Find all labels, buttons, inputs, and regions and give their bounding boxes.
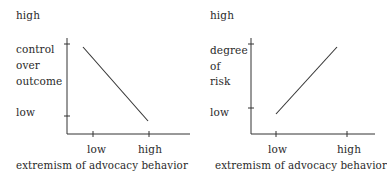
- x-low-label: low: [268, 143, 287, 155]
- y-label-line-1: degree: [210, 44, 248, 56]
- y-label-line-3: risk: [210, 75, 231, 87]
- x-high-label: high: [337, 143, 361, 155]
- chart-degree-of-risk: high degree of risk low low high extremi…: [190, 0, 380, 182]
- x-axis-title: extremism of advocacy behavior: [215, 159, 387, 171]
- y-label-line-2: of: [210, 60, 220, 72]
- chart-control-over-outcome: high control over outcome low low high e…: [0, 0, 190, 182]
- trend-line-decreasing: [83, 47, 148, 121]
- x-high-label: high: [138, 143, 162, 155]
- y-low-label: low: [210, 106, 229, 118]
- y-label-line-3: outcome: [16, 75, 62, 87]
- x-low-label: low: [87, 143, 106, 155]
- y-high-label: high: [210, 9, 234, 21]
- x-axis-title: extremism of advocacy behavior: [16, 159, 188, 171]
- y-low-label: low: [16, 106, 35, 118]
- trend-line-increasing: [276, 47, 337, 114]
- y-label-line-1: control: [16, 43, 55, 55]
- y-label-line-2: over: [16, 59, 40, 71]
- y-high-label: high: [16, 9, 40, 21]
